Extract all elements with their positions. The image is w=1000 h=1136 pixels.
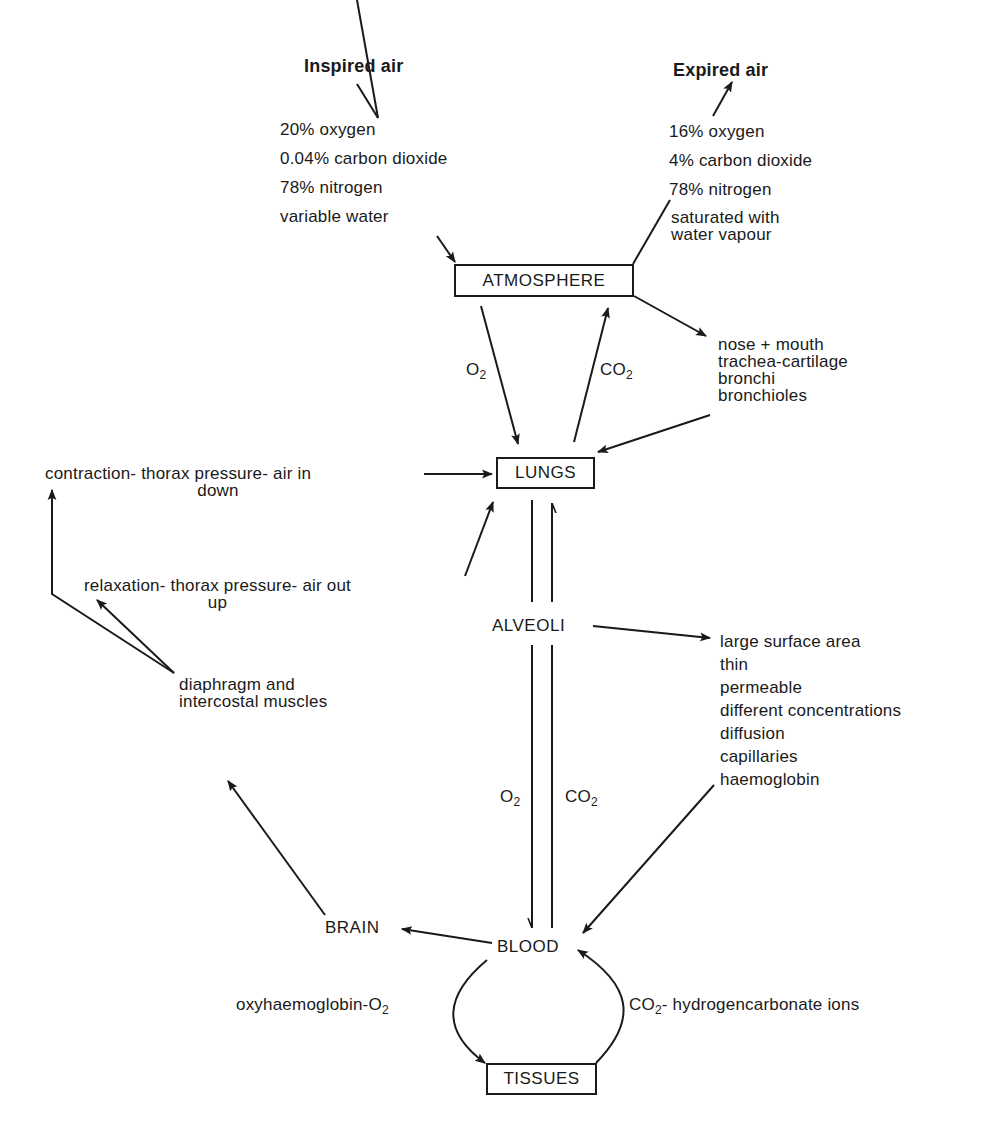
respiratory-muscles: diaphragm and intercostal muscles — [179, 676, 327, 710]
brain-node: BRAIN — [325, 918, 379, 938]
inspired-nitrogen: 78% nitrogen — [280, 173, 448, 202]
inhalation-line-2: down — [45, 482, 311, 499]
airway-bronchioles: bronchioles — [718, 387, 848, 404]
alveoli-node: ALVEOLI — [492, 616, 565, 636]
co2-label-lungs-atmosphere: CO2 — [600, 360, 633, 380]
lungs-node: LUNGS — [496, 457, 595, 489]
expired-air-composition: 16% oxygen 4% carbon dioxide 78% nitroge… — [669, 117, 812, 204]
expired-water-vapour: saturated with water vapour — [671, 209, 780, 243]
co2-label-blood-alveoli: CO2 — [565, 787, 598, 807]
airway-nose-mouth: nose + mouth — [718, 336, 848, 353]
feature-surface-area: large surface area — [720, 630, 901, 653]
feature-capillaries: capillaries — [720, 745, 901, 768]
expired-air-title: Expired air — [673, 60, 768, 80]
expired-carbon-dioxide: 4% carbon dioxide — [669, 146, 812, 175]
alveoli-features-list: large surface area thin permeable differ… — [720, 630, 901, 791]
feature-permeable: permeable — [720, 676, 901, 699]
inspired-oxygen: 20% oxygen — [280, 115, 448, 144]
inspired-water: variable water — [280, 202, 448, 231]
expired-nitrogen: 78% nitrogen — [669, 175, 812, 204]
exhalation-line-2: up — [84, 594, 351, 611]
inspired-carbon-dioxide: 0.04% carbon dioxide — [280, 144, 448, 173]
inspired-air-title: Inspired air — [304, 56, 403, 76]
diagram-connectors — [0, 0, 1000, 1136]
tissues-node: TISSUES — [486, 1063, 597, 1095]
airways-list: nose + mouth trachea-cartilage bronchi b… — [718, 336, 848, 404]
atmosphere-node: ATMOSPHERE — [454, 264, 634, 297]
exhalation-description: relaxation- thorax pressure- air out up — [84, 577, 351, 611]
inspired-air-composition: 20% oxygen 0.04% carbon dioxide 78% nitr… — [280, 115, 448, 231]
inhalation-description: contraction- thorax pressure- air in dow… — [45, 465, 311, 499]
exhalation-line-1: relaxation- thorax pressure- air out — [84, 577, 351, 594]
co2-transport-label: CO2- hydrogencarbonate ions — [629, 995, 859, 1015]
feature-thin: thin — [720, 653, 901, 676]
airway-bronchi: bronchi — [718, 370, 848, 387]
feature-haemoglobin: haemoglobin — [720, 768, 901, 791]
inhalation-line-1: contraction- thorax pressure- air in — [45, 465, 311, 482]
o2-label-atmosphere-lungs: O2 — [466, 360, 486, 380]
expired-oxygen: 16% oxygen — [669, 117, 812, 146]
blood-node: BLOOD — [497, 937, 559, 957]
airway-trachea: trachea-cartilage — [718, 353, 848, 370]
oxygen-transport-label: oxyhaemoglobin-O2 — [236, 995, 389, 1015]
feature-diffusion: diffusion — [720, 722, 901, 745]
feature-concentrations: different concentrations — [720, 699, 901, 722]
o2-label-alveoli-blood: O2 — [500, 787, 520, 807]
